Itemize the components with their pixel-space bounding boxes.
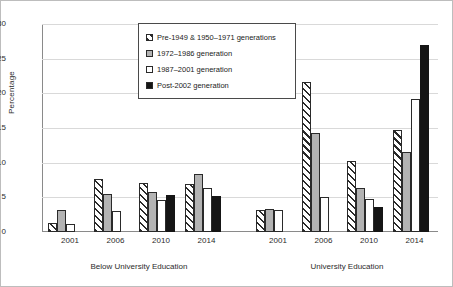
bar-2010-series0 [139, 183, 148, 232]
legend-swatch-icon-3 [146, 82, 153, 89]
bar-2014-series3 [420, 45, 429, 232]
bar-2006-series0 [94, 179, 103, 232]
legend-label-3: Post-2002 generation [157, 81, 229, 90]
bar-2010-series2 [365, 199, 374, 232]
legend-item-1: 1972–1986 generation [146, 45, 289, 61]
bar-2014-series3 [212, 196, 221, 232]
bar-2010-series3 [166, 195, 175, 232]
bar-cluster-1-2010 [347, 24, 391, 232]
y-tick-label-20: 20 [0, 89, 6, 97]
x-tick-label-1-2006: 2006 [301, 236, 347, 245]
x-tick-label-1-2014: 2014 [392, 236, 438, 245]
group-label-0: Below University Education [48, 262, 230, 271]
legend-label-2: 1987–2001 generation [157, 65, 232, 74]
legend-swatch-icon-0 [146, 34, 153, 41]
bar-cluster-1-2006 [302, 24, 346, 232]
bar-2001-series2 [274, 210, 283, 232]
bar-2006-series2 [112, 211, 121, 232]
bar-2014-series0 [185, 184, 194, 232]
x-tick-label-1-2001: 2001 [255, 236, 301, 245]
y-tick-label-5: 5 [0, 193, 6, 201]
group-label-1: University Education [256, 262, 438, 271]
bar-cluster-0-2001 [48, 24, 92, 232]
bar-2001-series0 [48, 223, 57, 232]
y-tick-label-0: 0 [0, 228, 6, 236]
y-tick-label-15: 15 [0, 124, 6, 132]
bar-2010-series3 [374, 207, 383, 232]
bar-2001-series1 [57, 210, 66, 232]
bar-2010-series1 [356, 188, 365, 232]
bar-2010-series2 [157, 200, 166, 232]
y-tick-label-30: 30 [0, 20, 6, 28]
bar-2014-series1 [194, 174, 203, 232]
bar-2014-series2 [203, 188, 212, 232]
y-tick-label-25: 25 [0, 55, 6, 63]
x-tick-label-0-2014: 2014 [184, 236, 230, 245]
bar-2014-series1 [402, 152, 411, 232]
bar-2006-series2 [320, 197, 329, 232]
x-tick-label-0-2006: 2006 [93, 236, 139, 245]
x-tick-label-1-2010: 2010 [346, 236, 392, 245]
bar-cluster-1-2014 [393, 24, 437, 232]
bar-2014-series2 [411, 99, 420, 232]
bar-2010-series1 [148, 192, 157, 232]
legend-item-2: 1987–2001 generation [146, 61, 289, 77]
legend-label-1: 1972–1986 generation [157, 49, 232, 58]
y-tick-label-10: 10 [0, 159, 6, 167]
bar-2010-series0 [347, 161, 356, 232]
x-tick-label-0-2001: 2001 [47, 236, 93, 245]
legend-item-0: Pre-1949 & 1950–1971 generations [146, 29, 289, 45]
chart-figure: Percentage 20012006201020142001200620102… [0, 0, 453, 287]
y-axis-title-wrap: Percentage [4, 0, 18, 208]
bar-2001-series1 [265, 209, 274, 232]
bar-2001-series0 [256, 210, 265, 232]
legend-label-0: Pre-1949 & 1950–1971 generations [157, 33, 276, 42]
x-tick-label-0-2010: 2010 [138, 236, 184, 245]
bar-2001-series2 [66, 224, 75, 232]
bar-2006-series0 [302, 82, 311, 232]
legend-swatch-icon-2 [146, 66, 153, 73]
legend-swatch-icon-1 [146, 50, 153, 57]
bar-cluster-0-2006 [94, 24, 138, 232]
chart-legend: Pre-1949 & 1950–1971 generations 1972–19… [138, 23, 296, 99]
y-axis-title: Percentage [7, 57, 16, 129]
bar-2014-series0 [393, 130, 402, 232]
bar-2006-series1 [103, 194, 112, 232]
bar-2006-series1 [311, 133, 320, 232]
legend-item-3: Post-2002 generation [146, 77, 289, 93]
